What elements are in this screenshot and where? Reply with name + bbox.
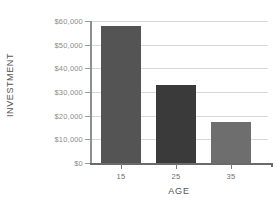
plot-area: $0$10,000$20,000$30,000$40,000$50,000$60… xyxy=(90,21,268,163)
y-axis-tick-label: $60,000 xyxy=(54,17,83,26)
bar-series xyxy=(90,21,268,163)
x-axis-end-tick xyxy=(271,163,273,167)
y-axis-title: INVESTMENT xyxy=(0,0,20,170)
x-axis-tick-mark xyxy=(121,164,122,169)
y-axis-tick-label: $0 xyxy=(74,159,83,168)
x-axis-tick-label: 35 xyxy=(227,172,236,181)
bar-chart: INVESTMENT $0$10,000$20,000$30,000$40,00… xyxy=(0,0,278,211)
y-axis-tick-label: $40,000 xyxy=(54,64,83,73)
y-axis-tick-label: $10,000 xyxy=(54,135,83,144)
x-axis-title-label: AGE xyxy=(168,186,189,196)
y-axis-tick-label: $20,000 xyxy=(54,111,83,120)
x-axis-title: AGE xyxy=(90,186,268,196)
bar xyxy=(211,122,251,163)
y-axis-title-label: INVESTMENT xyxy=(5,53,15,117)
x-axis-tick-mark xyxy=(231,164,232,169)
x-axis-tick-mark xyxy=(176,164,177,169)
x-axis-tick-label: 25 xyxy=(172,172,181,181)
y-axis-tick-label: $30,000 xyxy=(54,88,83,97)
bar xyxy=(101,26,141,163)
x-axis-tick-label: 15 xyxy=(117,172,126,181)
y-axis-tick-label: $50,000 xyxy=(54,40,83,49)
bar xyxy=(156,85,196,163)
